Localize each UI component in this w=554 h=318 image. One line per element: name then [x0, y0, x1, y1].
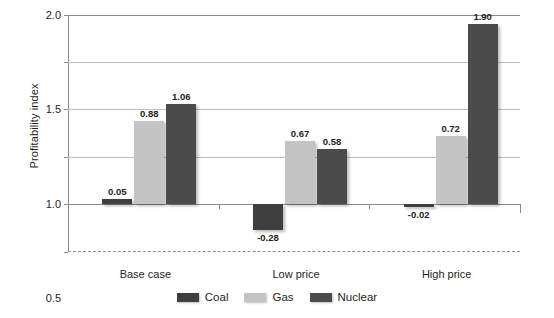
- legend-label-coal: Coal: [205, 291, 229, 303]
- y-tick-label-1.5: 1.5: [46, 103, 61, 115]
- axis-baseline-dashed: -0.5: [68, 251, 520, 252]
- bar-value-label: 0.67: [291, 128, 310, 139]
- bar-gas-base-case: [134, 121, 164, 204]
- bar-gas-high-price: [436, 136, 466, 204]
- plot-area: 2.01.51.00.50-0.5 0.050.881.06-0.280.670…: [68, 15, 520, 251]
- gridline-1.0: 1.0: [68, 109, 520, 110]
- category-label-high-price: High price: [422, 268, 472, 280]
- legend-item-coal[interactable]: Coal: [177, 291, 229, 303]
- bar-coal-low-price: [253, 204, 283, 230]
- bar-nuclear-base-case: [166, 104, 196, 204]
- category-axis-tick: [369, 204, 370, 209]
- bar-value-label: 1.90: [473, 11, 492, 22]
- gridline-2.0: 2.0: [68, 15, 520, 16]
- y-axis-line: [68, 15, 69, 251]
- gridline-1.5: 1.5: [68, 62, 520, 63]
- y-tick-mark: [64, 15, 68, 16]
- y-tick-label-2.0: 2.0: [46, 9, 61, 21]
- y-tick-mark: [64, 109, 68, 110]
- bar-value-label: 0.58: [323, 136, 342, 147]
- y-tick-mark: [64, 157, 68, 158]
- category-axis-tick: [520, 204, 521, 213]
- legend-swatch-nuclear-icon: [310, 293, 332, 302]
- bar-value-label: 0.05: [108, 186, 127, 197]
- y-axis-title: Profitability index: [28, 46, 40, 206]
- legend-item-gas[interactable]: Gas: [244, 291, 293, 303]
- legend-swatch-gas-icon: [244, 293, 266, 302]
- profitability-index-bar-chart: Profitability index 2.01.51.00.50-0.5 0.…: [0, 0, 554, 318]
- bar-value-label: 0.88: [140, 108, 159, 119]
- legend-label-nuclear: Nuclear: [338, 291, 378, 303]
- chart-legend: Coal Gas Nuclear: [0, 291, 554, 303]
- bar-value-label: 0.72: [441, 123, 460, 134]
- y-tick-label-1.0: 1.0: [46, 198, 61, 210]
- bar-value-label: -0.02: [408, 209, 430, 220]
- legend-swatch-coal-icon: [177, 293, 199, 302]
- bar-value-label: -0.28: [257, 232, 279, 243]
- category-label-low-price: Low price: [272, 268, 319, 280]
- legend-item-nuclear[interactable]: Nuclear: [310, 291, 378, 303]
- bar-nuclear-high-price: [468, 24, 498, 203]
- bar-nuclear-low-price: [317, 149, 347, 204]
- y-tick-mark: [64, 204, 68, 205]
- category-label-base-case: Base case: [120, 268, 171, 280]
- legend-label-gas: Gas: [272, 291, 293, 303]
- bar-coal-high-price: [404, 204, 434, 207]
- bar-value-label: 1.06: [172, 91, 191, 102]
- y-tick-mark: [64, 252, 68, 253]
- category-axis-tick: [219, 204, 220, 209]
- y-tick-mark: [64, 62, 68, 63]
- bar-gas-low-price: [285, 141, 315, 204]
- gridline-0: 0: [68, 204, 520, 205]
- bar-coal-base-case: [102, 199, 132, 204]
